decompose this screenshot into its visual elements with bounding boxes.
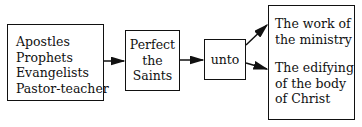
gift-label: Prophets: [16, 50, 103, 66]
ministry-text: The work of: [275, 16, 354, 32]
box-text: Saints: [126, 68, 179, 84]
gift-label: Evangelists: [16, 65, 103, 81]
gifts-box: Apostles Prophets Evangelists Pastor-tea…: [7, 24, 104, 101]
box-text: Perfect: [126, 37, 179, 53]
gift-label: Pastor-teacher: [16, 81, 103, 97]
outcomes-box: The work of the ministry The edifying of…: [268, 5, 355, 120]
edifying-text: The edifying: [275, 60, 354, 76]
ministry-text: the ministry: [275, 32, 354, 48]
flow-diagram: Apostles Prophets Evangelists Pastor-tea…: [0, 0, 362, 127]
box-text: unto: [205, 52, 245, 68]
arrow-unto-to-edifying: [246, 63, 267, 69]
box-text: the: [126, 53, 179, 69]
perfect-saints-box: Perfect the Saints: [125, 30, 180, 91]
unto-box: unto: [204, 39, 246, 80]
edifying-text: of Christ: [275, 91, 354, 107]
arrow-unto-to-ministry: [246, 25, 267, 45]
edifying-text: of the body: [275, 76, 354, 92]
gift-label: Apostles: [16, 34, 103, 50]
